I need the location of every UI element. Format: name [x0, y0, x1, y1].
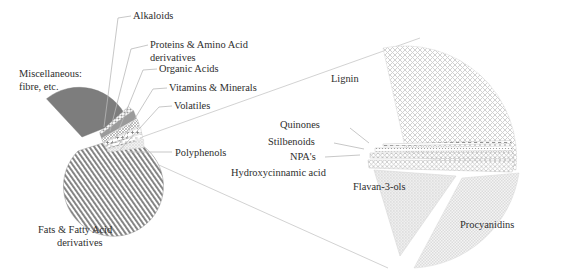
label-volatiles: Volatiles	[174, 100, 210, 111]
label-miscellaneous-line2: fibre, etc.	[19, 81, 59, 92]
label-proteins-line1: Proteins & Amino Acid	[150, 39, 249, 50]
label-quinones: Quinones	[280, 119, 320, 130]
label-proteins-line2: derivatives	[150, 52, 196, 63]
label-fats-line1: Fats & Fatty Acid	[38, 224, 113, 235]
label-alkaloids: Alkaloids	[133, 10, 173, 21]
label-stilbenoids: Stilbenoids	[268, 136, 315, 147]
label-fats-line2: derivatives	[57, 237, 103, 248]
label-organic-acids: Organic Acids	[159, 63, 219, 74]
label-hydroxycinnamic-acid: Hydroxycinnamic acid	[231, 167, 327, 178]
label-lignin: Lignin	[331, 73, 360, 84]
label-vitamins-minerals: Vitamins & Minerals	[169, 82, 257, 93]
chart-canvas: Miscellaneous: fibre, etc. Alkaloids Pro…	[0, 0, 576, 276]
sub-slice-npas[interactable]	[370, 152, 514, 159]
label-procyanidins: Procyanidins	[460, 219, 514, 230]
label-flavan-3-ols: Flavan-3-ols	[353, 181, 406, 192]
label-npas: NPA's	[290, 151, 316, 162]
label-polyphenols: Polyphenols	[175, 147, 226, 158]
pie-of-pie-figure: Miscellaneous: fibre, etc. Alkaloids Pro…	[0, 0, 576, 276]
label-miscellaneous-line1: Miscellaneous:	[19, 68, 82, 79]
